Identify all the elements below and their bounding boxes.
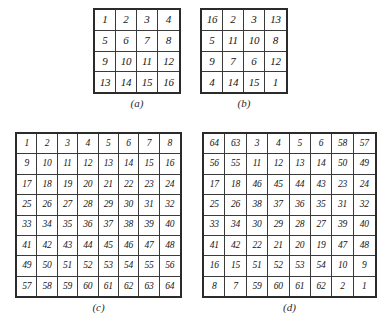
grid-cell: 24 [160,175,180,195]
grid-cell: 34 [225,216,246,236]
grid-cell: 52 [78,256,98,276]
grid-cell: 12 [78,154,98,174]
grid-cell: 14 [223,72,244,92]
grid-cell: 8 [158,31,179,52]
grid-cell: 40 [160,216,180,236]
grid-cell: 54 [311,256,332,276]
grid-cell: 56 [160,256,180,276]
grid-cell: 40 [354,216,375,236]
grid-cell: 28 [78,195,98,215]
panel-caption-c: (c) [15,301,182,313]
grid-cell: 15 [225,256,246,276]
grid-cell: 55 [225,154,246,174]
grid-cell: 53 [290,256,311,276]
panel-caption-d: (d) [202,301,377,313]
grid-cell: 4 [202,72,223,92]
grid-cell: 25 [204,195,225,215]
grid-cell: 2 [116,10,137,31]
grid-cell: 8 [265,31,286,52]
grid-cell: 11 [223,31,244,52]
grid-cell: 58 [332,134,353,154]
grid-cell: 39 [139,216,159,236]
grid-cell: 44 [78,236,98,256]
grid-cell: 4 [268,134,289,154]
grid-cell: 6 [119,134,139,154]
grid-cell: 7 [225,277,246,296]
grid-cell: 39 [332,216,353,236]
grid-cell: 10 [116,52,137,73]
grid-cell: 7 [139,134,159,154]
figure-panel-b: 16231351110897612414151 (b) [200,8,288,94]
grid-cell: 23 [332,175,353,195]
grid-cell: 9 [17,154,37,174]
grid-cell: 30 [247,216,268,236]
grid-cell: 63 [225,134,246,154]
grid-cell: 53 [99,256,119,276]
grid-cell: 11 [247,154,268,174]
grid-cell: 2 [332,277,353,296]
grid-cell: 46 [247,175,268,195]
grid-cell: 49 [354,154,375,174]
grid-cell: 9 [95,52,116,73]
grid-cell: 51 [247,256,268,276]
grid-cell: 7 [223,52,244,73]
grid-cell: 34 [37,216,57,236]
grid-cell: 46 [119,236,139,256]
grid-cell: 24 [354,175,375,195]
grid-cell: 50 [37,256,57,276]
grid-cell: 59 [247,277,268,296]
grid-cell: 29 [99,195,119,215]
grid-cell: 32 [160,195,180,215]
grid-cell: 26 [225,195,246,215]
figure-panel-d: 6463345658575655111213145049171846454443… [202,132,377,298]
panel-caption-a: (a) [93,97,181,109]
grid-cell: 58 [37,277,57,296]
grid-cell: 50 [332,154,353,174]
grid-cell: 29 [268,216,289,236]
grid-cell: 13 [95,72,116,92]
grid-cell: 1 [95,10,116,31]
grid-cell: 14 [311,154,332,174]
panel-caption-b: (b) [200,97,288,109]
grid-cell: 42 [37,236,57,256]
grid-cell: 16 [202,10,223,31]
grid-cell: 16 [160,154,180,174]
grid-cell: 27 [311,216,332,236]
grid-cell: 38 [119,216,139,236]
grid-cell: 36 [78,216,98,236]
grid-cell: 59 [58,277,78,296]
grid-cell: 3 [137,10,158,31]
grid-cell: 18 [225,175,246,195]
grid-cell: 38 [247,195,268,215]
grid-cell: 1 [17,134,37,154]
grid-cell: 5 [99,134,119,154]
grid-cell: 11 [58,154,78,174]
grid-cell: 27 [58,195,78,215]
grid-cell: 45 [268,175,289,195]
grid-cell: 6 [116,31,137,52]
grid-cell: 45 [99,236,119,256]
grid-cell: 2 [37,134,57,154]
grid-cell: 28 [290,216,311,236]
magic-square-grid-c: 1234567891011121314151617181920212223242… [15,132,182,298]
grid-cell: 12 [158,52,179,73]
grid-cell: 16 [204,256,225,276]
grid-cell: 36 [290,195,311,215]
grid-cell: 8 [160,134,180,154]
grid-cell: 61 [290,277,311,296]
grid-cell: 13 [265,10,286,31]
grid-cell: 31 [332,195,353,215]
grid-cell: 48 [354,236,375,256]
grid-cell: 43 [58,236,78,256]
grid-cell: 57 [354,134,375,154]
grid-cell: 1 [354,277,375,296]
grid-cell: 55 [139,256,159,276]
grid-cell: 21 [268,236,289,256]
grid-cell: 62 [119,277,139,296]
grid-cell: 35 [311,195,332,215]
grid-cell: 42 [225,236,246,256]
grid-cell: 6 [311,134,332,154]
grid-cell: 33 [204,216,225,236]
magic-square-grid-a: 12345678910111213141516 [93,8,181,94]
magic-square-grid-d: 6463345658575655111213145049171846454443… [202,132,377,298]
